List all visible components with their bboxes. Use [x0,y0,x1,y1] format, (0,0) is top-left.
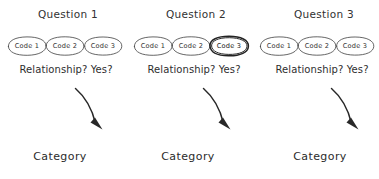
code-bubble-row-1: Code 1 Code 2 Code 3 [6,34,128,60]
code-bubble-label: Code 1 [6,35,48,57]
question-title-2: Question 2 [132,8,260,20]
flow-arrow-1 [72,86,118,140]
code-bubble-2-2[interactable]: Code 2 [170,35,212,57]
code-bubble-label: Code 3 [334,35,376,57]
code-bubble-2-1[interactable]: Code 1 [132,35,174,57]
question-column-1: Question 1 Code 1 Code 2 [0,0,128,179]
relationship-question-3: Relationship? Yes? [258,64,379,75]
code-bubble-label: Code 1 [258,35,300,57]
question-title-1: Question 1 [4,8,132,20]
code-bubble-row-3: Code 1 Code 2 Code 3 [258,34,379,60]
curved-arrow-icon [200,86,246,140]
code-bubble-3-3[interactable]: Code 3 [334,35,376,57]
code-bubble-1-1[interactable]: Code 1 [6,35,48,57]
curved-arrow-icon [72,86,118,140]
code-bubble-3-2[interactable]: Code 2 [296,35,338,57]
code-bubble-1-2[interactable]: Code 2 [44,35,86,57]
relationship-question-1: Relationship? Yes? [2,64,130,75]
code-bubble-3-1[interactable]: Code 1 [258,35,300,57]
code-bubble-label: Code 3 [82,35,124,57]
code-bubble-1-3[interactable]: Code 3 [82,35,124,57]
code-bubble-label: Code 2 [170,35,212,57]
outcome-label-3: Category [256,150,379,163]
question-column-2: Question 2 Code 1 Code 2 [122,0,250,179]
question-title-3: Question 3 [260,8,379,20]
outcome-label-1: Category [0,150,124,163]
code-bubble-label: Code 2 [296,35,338,57]
question-column-3: Question 3 Code 1 Code 2 [242,0,370,179]
code-bubble-label: Code 1 [132,35,174,57]
code-bubble-row-2: Code 1 Code 2 Code 3 [132,34,254,60]
code-bubble-label: Code 2 [44,35,86,57]
relationship-question-2: Relationship? Yes? [130,64,258,75]
flow-arrow-3 [328,86,374,140]
flow-arrow-2 [200,86,246,140]
curved-arrow-icon [328,86,374,140]
outcome-label-2: Category [124,150,252,163]
